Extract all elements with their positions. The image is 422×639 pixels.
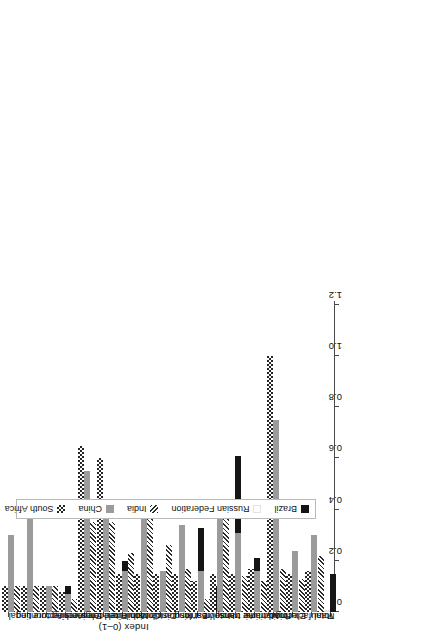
legend-label: China	[78, 504, 102, 514]
axis-tick-label: 1.2	[329, 290, 342, 301]
checkerboard-icon	[57, 505, 65, 513]
bar-south-africa-distribution	[134, 574, 140, 612]
bar-south-africa-legal	[2, 586, 8, 612]
bar-south-africa-air-transport	[210, 574, 216, 612]
axis-tick-label: 0.2	[329, 546, 342, 557]
legend-item-china[interactable]: China	[78, 504, 114, 514]
bar-south-africa-banking	[172, 574, 178, 612]
axis-tick-labels: 00.20.40.60.81.01.2	[0, 0, 340, 639]
axis-tick-mark	[334, 560, 339, 561]
bar-india-road-trans	[261, 581, 267, 612]
bar-china-total	[311, 535, 317, 612]
bar-india-manufacturing	[299, 579, 305, 612]
bar-china-engineering	[65, 594, 71, 612]
bar-india-construction	[128, 553, 134, 612]
bar-india-air-transport	[223, 505, 229, 612]
bar-south-africa-mobile-telecoms	[97, 459, 103, 613]
axis-tick-label: 0.8	[329, 392, 342, 403]
solid-gray-icon	[106, 505, 114, 513]
chart-legend[interactable]: BrazilRussian FederationIndiaChinaSouth …	[16, 499, 316, 519]
bar-south-africa-engineering	[59, 592, 65, 612]
axis-tick-mark	[334, 355, 339, 356]
legend-item-south-africa[interactable]: South Africa	[5, 504, 66, 514]
bar-china-architecture	[46, 586, 52, 612]
axis-tick-mark	[334, 458, 339, 459]
bar-china-hotel-rest-nt	[198, 571, 204, 612]
legend-item-india[interactable]: India	[127, 504, 159, 514]
legend-label: Russian Federation	[171, 504, 249, 514]
bar-india-maritime-trans	[242, 576, 248, 612]
bar-south-africa-total	[305, 571, 311, 612]
bar-india-electricity	[280, 569, 286, 612]
bar-south-africa-accounting	[21, 586, 27, 612]
solid-white-icon	[253, 505, 261, 513]
bar-brazil-total	[330, 574, 336, 612]
axis-tick-label: 0	[337, 597, 342, 608]
bar-china-insurance	[160, 571, 166, 612]
bar-india-legal	[14, 586, 20, 612]
axis-tick-label: 0.4	[329, 495, 342, 506]
legend-item-brazil[interactable]: Brazil	[274, 504, 309, 514]
legend-item-russian-federation[interactable]: Russian Federation	[171, 504, 261, 514]
bar-china-banking	[179, 525, 185, 612]
bar-south-africa-electricity	[267, 356, 273, 612]
bar-south-africa-construction	[116, 574, 122, 612]
legend-label: Brazil	[274, 504, 297, 514]
legend-label: India	[127, 504, 147, 514]
diagonal-hatch-icon	[150, 505, 158, 513]
bar-china-fixed-telecoms	[84, 471, 90, 612]
bar-india-banking	[185, 569, 191, 612]
plot-area: Index (0–1) 00.20.40.60.81.01.2 LegalAcc…	[0, 0, 340, 639]
axis-tick-label: 0.6	[329, 444, 342, 455]
axis-tick-mark	[334, 406, 339, 407]
category-label-total: Total	[314, 611, 334, 621]
chart-figure: Index (0–1) 00.20.40.60.81.01.2 LegalAcc…	[0, 0, 340, 639]
bar-china-distribution	[141, 507, 147, 612]
bar-china-air-transport	[217, 505, 223, 612]
legend-label: South Africa	[5, 504, 54, 514]
bar-india-total	[318, 556, 324, 612]
bar-india-mobile-telecoms	[109, 522, 115, 612]
bar-china-manufacturing	[292, 551, 298, 612]
bar-china-construction	[122, 571, 128, 612]
axis-tick-label: 1.0	[329, 341, 342, 352]
bar-south-africa-road-trans	[248, 569, 254, 612]
bar-china-legal	[8, 535, 14, 612]
bar-india-fixed-telecoms	[90, 522, 96, 612]
bar-south-africa-hotel-rest-nt	[191, 581, 197, 612]
axis-tick-mark	[334, 304, 339, 305]
bar-china-road-trans	[254, 571, 260, 612]
bar-south-africa-fixed-telecoms	[78, 446, 84, 612]
bar-south-africa-insurance	[153, 574, 159, 612]
solid-black-icon	[301, 505, 309, 513]
bar-india-accounting	[33, 586, 39, 612]
axis-tick-mark	[334, 509, 339, 510]
bar-south-africa-architecture	[40, 586, 46, 612]
bar-india-architecture	[52, 586, 58, 612]
bar-south-africa-maritime-trans	[229, 574, 235, 612]
bar-india-insurance	[166, 545, 172, 612]
bar-south-africa-manufacturing	[286, 574, 292, 612]
figure-page: Index (0–1) 00.20.40.60.81.01.2 LegalAcc…	[0, 0, 422, 639]
bar-china-maritime-trans	[235, 533, 241, 612]
